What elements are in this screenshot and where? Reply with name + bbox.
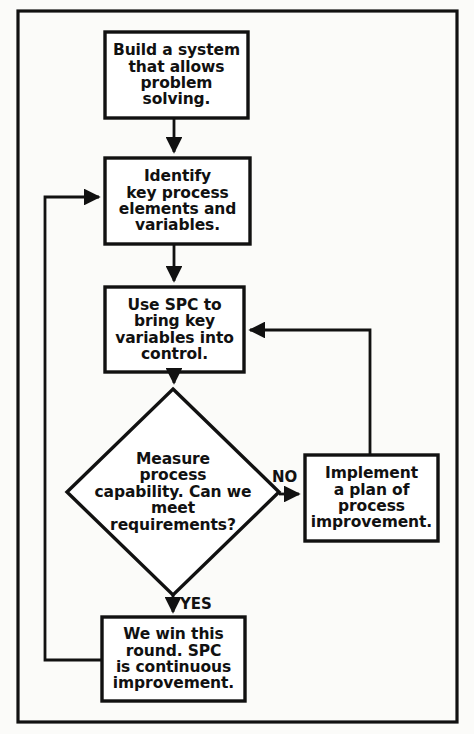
node-use-spc[interactable]	[105, 287, 244, 372]
node-implement-plan[interactable]	[305, 455, 438, 541]
node-we-win[interactable]	[102, 617, 245, 701]
node-build-system[interactable]	[105, 32, 248, 118]
edge-label-yes: YES	[180, 595, 212, 613]
node-identify-elements[interactable]	[105, 158, 250, 244]
node-measure-capability[interactable]	[67, 389, 279, 595]
flowchart-page: Build a system that allows problem solvi…	[0, 0, 474, 734]
